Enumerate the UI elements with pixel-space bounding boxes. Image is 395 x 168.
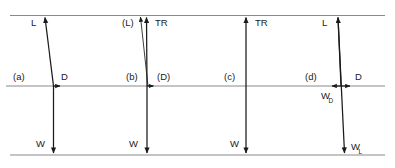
panel-c: TR W (c): [224, 17, 268, 153]
panel-b-drag-label: (D): [157, 71, 170, 82]
force-vector-diagram: L D W (a) (L) TR (D) W (b) T: [0, 0, 395, 168]
panel-b: (L) TR (D) W (b): [122, 17, 170, 153]
panel-a-drag-label: D: [61, 71, 68, 82]
panel-d-weight-lift-label: W L: [351, 141, 363, 155]
panel-d-lift-label: L: [322, 17, 327, 28]
panel-d-wd-subscript: D: [329, 97, 334, 104]
reference-lines: [6, 16, 385, 156]
panel-d-drag-label: D: [355, 71, 362, 82]
panel-a-tag: (a): [13, 71, 25, 82]
panel-b-thrust-vector: [147, 18, 148, 87]
panel-a: L D W (a): [13, 17, 68, 153]
panel-d-weight-drag-label: W D: [321, 90, 334, 104]
panel-c-thrust-label: TR: [255, 17, 268, 28]
panel-d-tag: (d): [305, 71, 317, 82]
panel-c-tag: (c): [224, 71, 235, 82]
panel-a-lift-label: L: [31, 17, 36, 28]
panel-c-weight-label: W: [230, 138, 239, 149]
panel-a-lift-vector: [45, 18, 54, 87]
panel-d-weight-lift-vector: [338, 18, 345, 154]
diagram-canvas: L D W (a) (L) TR (D) W (b) T: [0, 0, 395, 168]
panel-b-thrust-label: TR: [155, 17, 168, 28]
panel-b-tag: (b): [126, 71, 138, 82]
panel-d-wl-subscript: L: [359, 148, 363, 155]
panel-b-weight-label: W: [129, 138, 138, 149]
panel-a-weight-label: W: [36, 138, 45, 149]
panel-b-lift-label: (L): [122, 17, 134, 28]
